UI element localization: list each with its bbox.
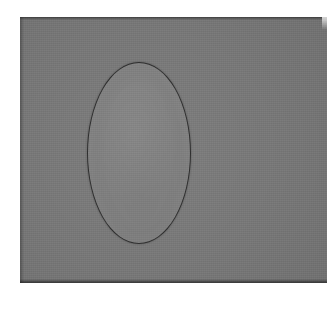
ellipse-outline [87, 62, 191, 244]
plate-left-edge [20, 17, 24, 283]
ellipse-grain-texture [88, 63, 190, 243]
ellipse-inclusion [88, 63, 190, 243]
gray-background-plate [20, 17, 327, 283]
plate-bottom-edge [20, 279, 327, 283]
ellipse-internal-shading [88, 63, 190, 243]
figure-canvas [0, 0, 327, 309]
plate-top-edge [20, 17, 327, 20]
page-corner-highlight [322, 0, 327, 30]
